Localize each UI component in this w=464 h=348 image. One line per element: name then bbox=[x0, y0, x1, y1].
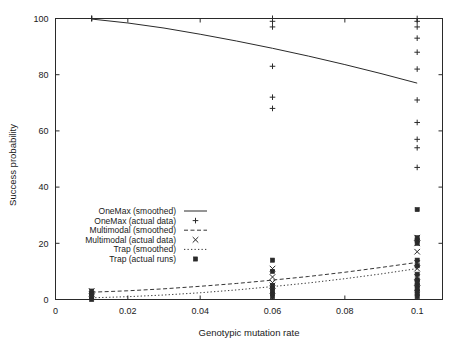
y-axis-tick-labels: 020406080100 bbox=[33, 14, 48, 305]
data-point-cross-marker bbox=[193, 237, 199, 243]
x-tick-label: 0.06 bbox=[264, 306, 282, 316]
x-tick-label: 0 bbox=[53, 306, 58, 316]
series-line bbox=[92, 19, 418, 83]
chart-figure: 00.020.040.060.080.1 020406080100 OneMax… bbox=[0, 0, 464, 348]
data-point-square-marker bbox=[415, 272, 419, 276]
data-point-plus-marker bbox=[414, 137, 420, 143]
data-point-plus-marker bbox=[414, 145, 420, 151]
series-0 bbox=[92, 19, 418, 83]
y-tick-label: 40 bbox=[38, 182, 48, 192]
legend-label-5: Trap (actual runs) bbox=[109, 254, 176, 264]
data-point-plus-marker bbox=[414, 49, 420, 55]
x-tick-label: 0.1 bbox=[411, 306, 424, 316]
legend-label-2: Multimodal (smoothed) bbox=[90, 225, 177, 235]
x-axis-tick-labels: 00.020.040.060.080.1 bbox=[53, 306, 423, 316]
y-tick-label: 80 bbox=[38, 70, 48, 80]
data-point-square-marker bbox=[415, 264, 419, 268]
data-point-square-marker bbox=[415, 295, 419, 299]
data-point-square-marker bbox=[270, 269, 274, 273]
legend-label-0: OneMax (smoothed) bbox=[99, 206, 177, 216]
x-axis-title: Genotypic mutation rate bbox=[199, 327, 300, 338]
series-4 bbox=[92, 269, 418, 298]
data-point-cross-marker bbox=[414, 249, 420, 255]
y-tick-label: 100 bbox=[33, 14, 48, 24]
data-point-plus-marker bbox=[270, 19, 276, 25]
legend-swatch-5 bbox=[193, 257, 197, 261]
x-tick-label: 0.04 bbox=[191, 306, 209, 316]
legend-label-1: OneMax (actual data) bbox=[94, 216, 176, 226]
y-axis-title: Success probability bbox=[7, 124, 18, 206]
data-point-square-marker bbox=[415, 258, 419, 262]
x-tick-label: 0.02 bbox=[119, 306, 137, 316]
data-point-plus-marker bbox=[414, 24, 420, 30]
data-point-plus-marker bbox=[270, 94, 276, 100]
data-point-plus-marker bbox=[414, 66, 420, 72]
data-point-plus-marker bbox=[414, 97, 420, 103]
data-point-square-marker bbox=[415, 207, 419, 211]
data-point-plus-marker bbox=[270, 106, 276, 112]
data-point-square-marker bbox=[270, 295, 274, 299]
data-point-plus-marker bbox=[414, 120, 420, 126]
data-point-square-marker bbox=[90, 297, 94, 301]
chart-canvas: 00.020.040.060.080.1 020406080100 OneMax… bbox=[0, 0, 464, 348]
legend-label-4: Trap (smoothed) bbox=[113, 244, 176, 254]
data-point-plus-marker bbox=[414, 19, 420, 25]
series-line bbox=[92, 262, 418, 292]
series-2 bbox=[92, 262, 418, 292]
legend-swatch-3 bbox=[193, 237, 199, 243]
data-point-square-marker bbox=[193, 257, 197, 261]
legend-label-3: Multimodal (actual data) bbox=[85, 235, 176, 245]
data-point-square-marker bbox=[270, 258, 274, 262]
x-tick-label: 0.08 bbox=[336, 306, 354, 316]
data-point-plus-marker bbox=[270, 24, 276, 30]
data-point-plus-marker bbox=[89, 16, 95, 22]
data-point-cross-marker bbox=[270, 274, 276, 280]
data-point-plus-marker bbox=[414, 35, 420, 41]
chart-legend: OneMax (smoothed)OneMax (actual data)Mul… bbox=[85, 206, 207, 264]
data-point-plus-marker bbox=[414, 165, 420, 171]
data-point-plus-marker bbox=[193, 218, 199, 224]
data-point-plus-marker bbox=[270, 63, 276, 69]
legend-swatch-1 bbox=[193, 218, 199, 224]
data-point-square-marker bbox=[415, 241, 419, 245]
series-1 bbox=[89, 16, 420, 171]
y-tick-label: 60 bbox=[38, 126, 48, 136]
series-line bbox=[92, 269, 418, 298]
y-tick-label: 20 bbox=[38, 239, 48, 249]
y-tick-label: 0 bbox=[43, 295, 48, 305]
